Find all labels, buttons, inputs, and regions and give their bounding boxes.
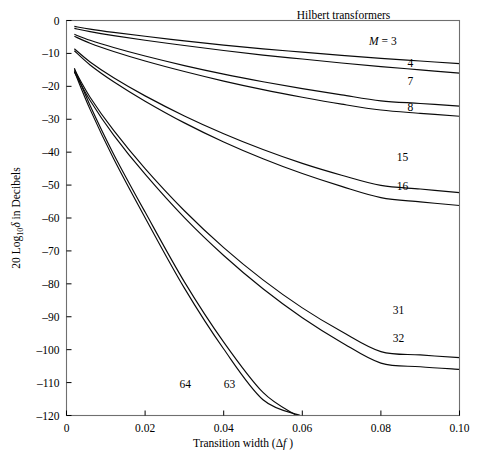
curve-label-64: 64 [179,378,191,390]
y-tick-label: –30 [41,113,60,125]
chart-figure: 00.020.040.060.080.10 0–10–20–30–40–50–6… [0,0,486,466]
y-tick-label: –120 [36,410,60,422]
hilbert-transformer-chart: 00.020.040.060.080.10 0–10–20–30–40–50–6… [0,0,486,466]
y-tick-label: –70 [41,245,60,257]
y-tick-label: 0 [54,15,60,27]
x-tick-label: 0.10 [449,422,469,434]
chart-background [0,0,486,466]
curve-label-7: 7 [408,75,414,87]
x-tick-label: 0.04 [214,422,234,434]
y-tick-label: –110 [36,377,60,389]
curve-label-15: 15 [397,151,409,163]
y-tick-label: –20 [41,80,60,92]
y-tick-label: –60 [41,212,60,224]
curve-label-16: 16 [397,180,409,192]
x-axis-label: Transition width (Δf ) [193,437,293,450]
y-tick-label: –100 [36,344,60,356]
x-tick-label: 0.06 [292,422,312,434]
curve-label-m-3: M = 3 [368,35,397,47]
curve-label-4: 4 [408,57,414,69]
y-tick-label: –40 [41,146,60,158]
y-tick-label: –10 [41,47,60,59]
curve-label-63: 63 [224,378,236,390]
curve-label-8: 8 [408,101,414,113]
y-tick-label: –90 [41,311,60,323]
curve-label-31: 31 [393,304,405,316]
curve-label-32: 32 [393,332,405,344]
y-tick-label: –50 [41,179,60,191]
x-tick-label: 0.08 [371,422,391,434]
x-tick-label: 0.02 [135,422,155,434]
chart-title: Hilbert transformers [297,9,391,21]
x-tick-label: 0 [64,422,70,434]
y-tick-label: –80 [41,278,60,290]
